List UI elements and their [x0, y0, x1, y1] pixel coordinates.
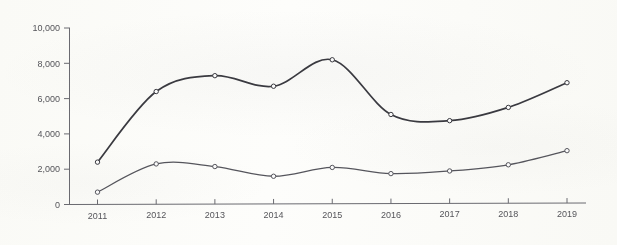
data-point-marker [447, 118, 451, 122]
line-chart: 02,0004,0006,0008,00010,000 201120122013… [0, 0, 617, 245]
y-tick-label: 2,000 [37, 164, 60, 174]
data-point-marker [213, 164, 217, 168]
data-point-marker [213, 73, 217, 77]
y-tick-label: 8,000 [37, 59, 60, 69]
x-tick-label: 2014 [264, 210, 284, 220]
y-tick-label: 6,000 [37, 94, 60, 104]
data-point-marker [506, 163, 510, 167]
data-point-marker [271, 84, 275, 88]
data-point-marker [565, 81, 569, 85]
data-point-marker [565, 148, 569, 152]
data-point-marker [330, 165, 334, 169]
data-point-marker [447, 169, 451, 173]
data-point-marker [154, 162, 158, 166]
chart-container: 02,0004,0006,0008,00010,000 201120122013… [0, 0, 617, 245]
x-tick-label: 2017 [440, 209, 460, 219]
data-point-marker [271, 174, 275, 178]
y-tick-label: 10,000 [32, 23, 60, 33]
data-point-marker [506, 105, 510, 109]
data-point-marker [330, 58, 334, 62]
series-line-upper [98, 59, 568, 162]
y-axis-tick-labels: 02,0004,0006,0008,00010,000 [32, 23, 60, 210]
data-point-marker [95, 160, 99, 164]
series-line-lower [98, 151, 568, 192]
x-tick-label: 2011 [88, 211, 107, 221]
x-tick-label: 2013 [205, 210, 225, 220]
x-tick-label: 2018 [498, 209, 518, 219]
series-markers-lower [95, 148, 569, 194]
data-point-marker [389, 171, 393, 175]
data-point-marker [389, 112, 393, 116]
x-axis-tick-labels: 201120122013201420152016201720182019 [88, 209, 577, 220]
x-tick-label: 2012 [146, 210, 166, 220]
y-tick-label: 4,000 [37, 129, 60, 139]
data-point-marker [154, 89, 158, 93]
x-tick-label: 2016 [381, 210, 401, 220]
y-tick-label: 0 [55, 200, 60, 210]
data-point-marker [95, 190, 99, 194]
x-tick-label: 2015 [322, 210, 342, 220]
x-tick-label: 2019 [557, 209, 577, 219]
